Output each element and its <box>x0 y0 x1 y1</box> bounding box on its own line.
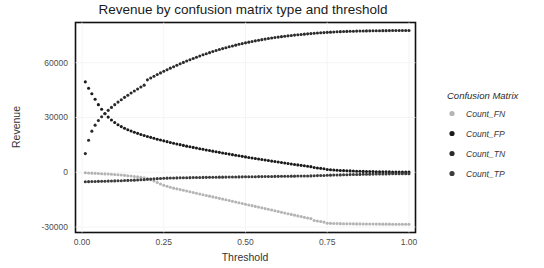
data-point <box>195 176 198 179</box>
data-point <box>156 138 159 141</box>
data-point <box>237 201 240 204</box>
data-point <box>381 172 384 175</box>
data-point <box>404 29 407 32</box>
data-point <box>300 164 303 167</box>
data-point <box>391 172 394 175</box>
data-point <box>130 179 133 182</box>
data-point <box>94 124 97 127</box>
data-point <box>365 29 368 32</box>
data-point <box>273 36 276 39</box>
data-point <box>309 217 312 220</box>
y-axis-title: Revenue <box>10 106 22 148</box>
data-point <box>280 35 283 38</box>
data-point <box>355 173 358 176</box>
data-point <box>247 203 250 206</box>
data-point <box>254 157 257 160</box>
data-point <box>306 32 309 35</box>
data-point <box>385 223 388 226</box>
data-point <box>201 176 204 179</box>
data-point <box>365 170 368 173</box>
data-point <box>90 180 93 183</box>
data-point <box>195 146 198 149</box>
data-point <box>175 142 178 145</box>
data-point <box>97 180 100 183</box>
data-point <box>185 190 188 193</box>
data-point <box>270 160 273 163</box>
data-point <box>136 175 139 178</box>
data-point <box>120 125 123 128</box>
data-point <box>113 103 116 106</box>
data-point <box>349 222 352 225</box>
data-point <box>97 119 100 122</box>
data-point <box>358 30 361 33</box>
data-point <box>237 154 240 157</box>
data-point <box>224 152 227 155</box>
data-point <box>349 169 352 172</box>
data-point <box>175 176 178 179</box>
data-point <box>381 223 384 226</box>
data-point <box>326 31 329 34</box>
data-point <box>329 168 332 171</box>
data-point <box>394 223 397 226</box>
data-point <box>116 173 119 176</box>
data-point <box>234 44 237 47</box>
data-point <box>358 173 361 176</box>
data-point <box>270 37 273 40</box>
data-point <box>322 167 325 170</box>
data-point <box>283 161 286 164</box>
data-point <box>156 181 159 184</box>
data-point <box>303 216 306 219</box>
data-point <box>211 176 214 179</box>
data-point <box>293 34 296 37</box>
data-point <box>198 147 201 150</box>
data-point <box>339 30 342 33</box>
y-tick-label: 0 <box>63 167 68 177</box>
data-point <box>388 29 391 32</box>
data-point <box>290 175 293 178</box>
data-point <box>188 145 191 148</box>
data-point <box>257 157 260 160</box>
data-point <box>260 158 263 161</box>
data-point <box>103 112 106 115</box>
data-point <box>224 176 227 179</box>
data-point <box>192 191 195 194</box>
data-point <box>94 98 97 101</box>
x-tick-label: 0.50 <box>237 237 254 247</box>
data-point <box>306 165 309 168</box>
data-point <box>110 173 113 176</box>
data-point <box>192 146 195 149</box>
legend-item-label: Count_FP <box>466 129 505 139</box>
data-point <box>342 173 345 176</box>
data-point <box>342 169 345 172</box>
data-point <box>172 65 175 68</box>
data-point <box>250 156 253 159</box>
data-point <box>329 174 332 177</box>
data-point <box>371 29 374 32</box>
data-point <box>87 139 90 142</box>
data-point <box>329 222 332 225</box>
data-point <box>244 203 247 206</box>
data-point <box>385 29 388 32</box>
data-point <box>107 180 110 183</box>
data-point <box>87 87 90 90</box>
data-point <box>107 109 110 112</box>
data-point <box>205 52 208 55</box>
data-point <box>355 222 358 225</box>
data-point <box>309 165 312 168</box>
data-point <box>264 207 267 210</box>
data-point <box>172 142 175 145</box>
data-point <box>260 175 263 178</box>
legend-item-label: Count_FN <box>466 109 506 119</box>
data-point <box>228 175 231 178</box>
data-point <box>159 138 162 141</box>
data-point <box>362 173 365 176</box>
data-point <box>388 223 391 226</box>
data-point <box>182 61 185 64</box>
data-point <box>234 200 237 203</box>
data-point <box>231 153 234 156</box>
data-point <box>352 170 355 173</box>
data-point <box>224 198 227 201</box>
data-point <box>250 175 253 178</box>
data-point <box>401 223 404 226</box>
data-point <box>130 175 133 178</box>
